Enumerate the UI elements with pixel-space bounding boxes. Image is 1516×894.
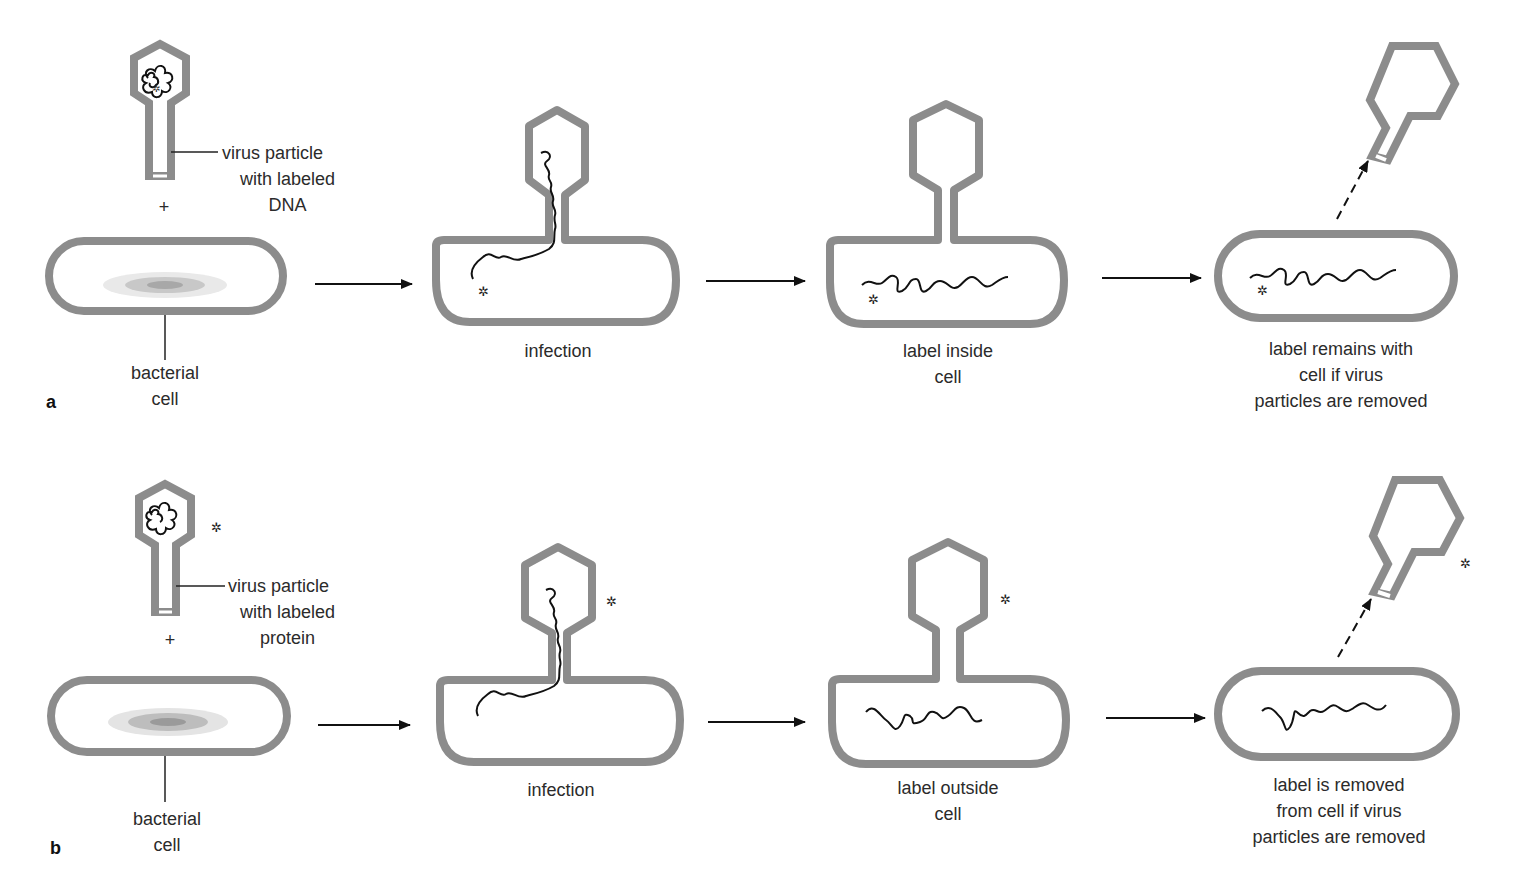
bacterial-cell-b (51, 680, 287, 802)
virus-particle-labeled-protein: ✲ (139, 484, 225, 612)
svg-text:✲: ✲ (1000, 592, 1011, 607)
label-removed-cell-b: ✲ (1218, 480, 1471, 757)
svg-text:✲: ✲ (152, 83, 160, 94)
svg-text:✲: ✲ (868, 292, 879, 307)
label-outside-cell-b: ✲ (832, 542, 1066, 764)
caption-b1: infection (481, 777, 641, 803)
virus-label-b-line3: protein (220, 625, 355, 651)
virus-label-a-line3: DNA (220, 192, 355, 218)
removal-arrow (1338, 599, 1371, 657)
panel-letter-b: b (50, 838, 61, 859)
empty-virus-coat (1370, 46, 1455, 160)
bacterial-cell-a (49, 241, 283, 360)
label-inside-cell-a: ✲ (830, 104, 1064, 324)
bacterial-dna-stipple (103, 272, 227, 298)
cell-label-b-line2: cell (112, 832, 222, 858)
virus-label-a-line2: with labeled (220, 166, 355, 192)
caption-a2-line1: label inside (868, 338, 1028, 364)
caption-b2-line1: label outside (868, 775, 1028, 801)
virus-label-b-line2: with labeled (220, 599, 355, 625)
caption-a3-line2: cell if virus (1236, 362, 1446, 388)
virus-label-b-line1: virus particle (228, 573, 329, 599)
removal-arrow (1337, 161, 1368, 219)
caption-a1: infection (478, 338, 638, 364)
infection-b: ✲ (440, 547, 680, 762)
label-remains-cell-a: ✲ (1218, 46, 1455, 318)
svg-text:✲: ✲ (211, 520, 222, 535)
cell-label-b-line1: bacterial (112, 806, 222, 832)
virus-label-a: virus particle (222, 140, 323, 166)
caption-b2-line2: cell (868, 801, 1028, 827)
svg-text:✲: ✲ (478, 284, 489, 299)
caption-b3-line1: label is removed (1234, 772, 1444, 798)
cell-label-a-line1: bacterial (110, 360, 220, 386)
svg-text:✲: ✲ (1460, 556, 1471, 571)
caption-b3-line3: particles are removed (1234, 824, 1444, 850)
infection-a: ✲ (436, 110, 676, 322)
plus-sign-b: + (158, 627, 182, 653)
caption-a3-line1: label remains with (1236, 336, 1446, 362)
caption-b3-line2: from cell if virus (1234, 798, 1444, 824)
caption-a3-line3: particles are removed (1236, 388, 1446, 414)
virus-particle-labeled-dna: ✲ (134, 44, 218, 176)
virus-label-a-line1: virus particle (222, 140, 323, 166)
plus-sign-a: + (152, 194, 176, 220)
empty-virus-coat (1373, 480, 1460, 596)
hershey-chase-diagram: ✲ ✲ ✲ ✲ (0, 0, 1516, 894)
svg-text:✲: ✲ (606, 594, 617, 609)
svg-text:✲: ✲ (1257, 283, 1268, 298)
cell-label-a-line2: cell (110, 386, 220, 412)
panel-letter-a: a (46, 392, 56, 413)
caption-a2-line2: cell (868, 364, 1028, 390)
